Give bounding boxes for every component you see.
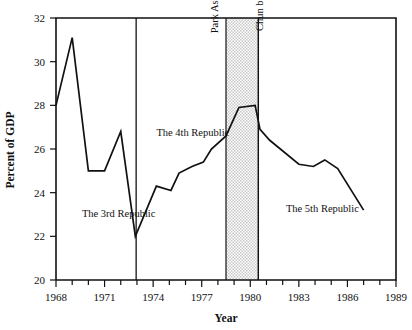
era-3rd-republic: The 3rd Republic xyxy=(82,208,156,219)
y-tick-label-30: 30 xyxy=(34,56,46,68)
event-park-assassinated: Park Assassinated xyxy=(209,0,220,33)
x-tick-label-1974: 1974 xyxy=(142,291,165,303)
y-tick-label-28: 28 xyxy=(34,99,46,111)
y-axis-tickmarks xyxy=(50,18,56,280)
x-tick-label-1980: 1980 xyxy=(239,291,262,303)
x-tick-label-1986: 1986 xyxy=(336,291,359,303)
x-tick-label-1983: 1983 xyxy=(288,291,311,303)
transition-period-band xyxy=(226,18,258,280)
y-tick-label-20: 20 xyxy=(34,274,46,286)
y-axis-tick-labels: 20222426283032 xyxy=(34,12,46,286)
y-axis-title: Percent of GDP xyxy=(4,111,16,188)
x-axis-tick-labels: 19681971197419771980198319861989 xyxy=(45,291,408,303)
era-5th-republic: The 5th Republic xyxy=(286,203,359,214)
gdp-line-chart: 19681971197419771980198319861989 2022242… xyxy=(0,0,412,330)
y-tick-label-26: 26 xyxy=(34,143,46,155)
y-tick-label-32: 32 xyxy=(34,12,45,24)
event-chun-became-president: Chun became President xyxy=(254,0,265,31)
era-4th-republic: The 4th Republic xyxy=(156,127,229,138)
chart-annotations: The 3rd RepublicThe 4th RepublicThe 5th … xyxy=(82,0,359,219)
y-tick-label-24: 24 xyxy=(34,187,46,199)
transition-period-band xyxy=(226,18,258,280)
x-tick-label-1989: 1989 xyxy=(385,291,408,303)
x-tick-label-1971: 1971 xyxy=(94,291,116,303)
y-tick-label-22: 22 xyxy=(34,230,45,242)
x-axis-title: Year xyxy=(215,312,238,324)
x-tick-label-1968: 1968 xyxy=(45,291,68,303)
chart-figure: 19681971197419771980198319861989 2022242… xyxy=(0,0,412,330)
x-tick-label-1977: 1977 xyxy=(191,291,214,303)
x-axis-tickmarks xyxy=(56,280,396,287)
